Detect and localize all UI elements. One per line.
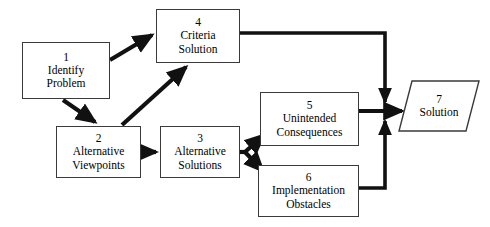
node-3-label-line1: Alternative [174,145,226,159]
edge-6-to-7 [359,121,385,188]
edge-1-to-2 [63,100,95,122]
node-2-alternative-viewpoints[interactable]: 2 Alternative Viewpoints [56,126,141,178]
node-6-implementation-obstacles[interactable]: 6 Implementation Obstacles [258,165,359,217]
node-5-label-line2: Consequences [277,126,343,140]
node-7-label-line1: Solution [420,106,459,120]
node-6-number: 6 [306,171,312,184]
node-3-number: 3 [197,132,203,145]
node-2-label-line2: Viewpoints [72,159,124,173]
node-5-label-line1: Unintended [283,112,337,126]
node-2-label-line1: Alternative [73,145,125,159]
node-7-number: 7 [436,93,442,106]
node-1-label-line2: Problem [47,77,86,91]
node-4-label-line2: Solution [179,43,218,57]
node-4-number: 4 [195,16,201,29]
node-7-solution[interactable]: 7 Solution [398,80,480,132]
node-1-label-line1: Identify [48,64,84,78]
node-3-label-line2: Solutions [178,159,221,173]
flowchart-diagram: 1 Identify Problem 2 Alternative Viewpoi… [0,0,490,227]
node-6-label-line1: Implementation [272,184,345,198]
node-7-text-group: 7 Solution [398,80,480,132]
node-3-alternative-solutions[interactable]: 3 Alternative Solutions [160,126,240,178]
node-2-number: 2 [96,132,102,145]
node-4-label-line1: Criteria [180,29,215,43]
node-1-identify-problem[interactable]: 1 Identify Problem [22,42,110,99]
edge-1-to-4 [110,35,152,60]
node-5-unintended-consequences[interactable]: 5 Unintended Consequences [260,92,359,146]
node-4-criteria-solution[interactable]: 4 Criteria Solution [156,9,240,63]
edge-2-to-4 [122,67,186,125]
node-5-number: 5 [307,99,313,112]
node-6-label-line2: Obstacles [286,198,331,212]
node-1-number: 1 [63,51,69,64]
